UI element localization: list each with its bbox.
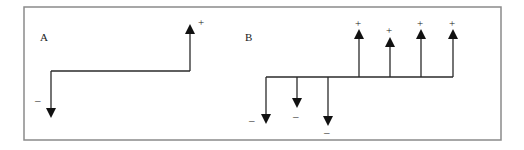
figure-frame (24, 7, 501, 140)
plus-sign: + (355, 17, 361, 29)
plus-sign: + (417, 17, 423, 29)
minus-sign: – (292, 110, 299, 122)
plus-sign: + (198, 16, 204, 28)
panel-a-label: A (40, 31, 48, 43)
minus-sign: – (34, 94, 41, 106)
plus-sign: + (449, 17, 455, 29)
minus-sign: – (248, 114, 255, 126)
plus-sign: + (386, 24, 392, 36)
cash-flow-diagram: A –+ B –––++++ (0, 0, 524, 150)
panel-b-label: B (245, 31, 252, 43)
minus-sign: – (323, 126, 330, 138)
